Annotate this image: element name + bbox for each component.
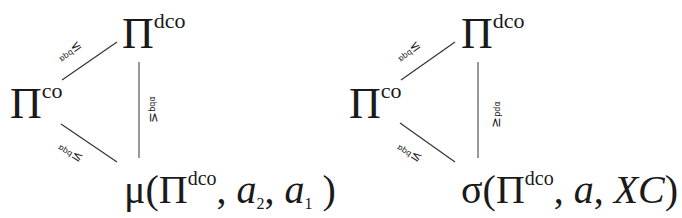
superscript: dco xyxy=(525,167,554,189)
arg-a: a xyxy=(574,167,594,212)
sigma-open: σ( xyxy=(461,167,496,212)
pi-symbol: Π xyxy=(159,167,188,212)
close-paren: ) xyxy=(313,167,336,212)
pi-symbol: Π xyxy=(496,167,525,212)
diagram-mu: Πdco Πco μ(Πdco, a2, a1 ) ≥pdα ≥pdα ≥pdα xyxy=(0,0,341,218)
superscript: co xyxy=(42,78,63,103)
comma: , xyxy=(265,167,285,212)
comma: , xyxy=(594,167,614,212)
node-sigma-expression: σ(Πdco, a, XC) xyxy=(461,168,678,210)
superscript: co xyxy=(381,78,402,103)
edge-label-top-bottom: ≥pdα xyxy=(148,96,161,122)
close-paren: ) xyxy=(665,167,678,212)
arg-a: a xyxy=(285,167,305,212)
node-mu-expression: μ(Πdco, a2, a1 ) xyxy=(124,168,336,212)
mu-open: μ( xyxy=(124,167,159,212)
superscript: dco xyxy=(154,8,186,33)
node-pi-dco: Πdco xyxy=(461,10,525,56)
arg-xc: XC xyxy=(614,167,665,212)
relation: ≥ xyxy=(488,117,503,128)
subscript: 2 xyxy=(257,195,265,212)
node-pi-co: Πco xyxy=(349,80,402,126)
edge-label-top-bottom: ≥pdα xyxy=(489,101,502,127)
subscript: 1 xyxy=(305,195,313,212)
diagram-sigma: Πdco Πco σ(Πdco, a, XC) ≥pdα ≥pdα ≥pdα xyxy=(341,0,682,218)
node-pi-dco: Πdco xyxy=(122,10,186,56)
comma: , xyxy=(554,167,574,212)
pi-symbol: Π xyxy=(122,9,154,58)
sub: pd xyxy=(493,107,502,117)
sub: pd xyxy=(148,102,157,112)
pi-symbol: Π xyxy=(10,79,42,128)
pi-symbol: Π xyxy=(349,79,381,128)
sup: α xyxy=(148,96,157,101)
superscript: dco xyxy=(493,8,525,33)
superscript: dco xyxy=(188,167,217,189)
comma: , xyxy=(217,167,237,212)
node-pi-co: Πco xyxy=(10,80,63,126)
arg-a: a xyxy=(237,167,257,212)
relation: ≥ xyxy=(147,112,162,123)
sup: α xyxy=(493,101,502,106)
pi-symbol: Π xyxy=(461,9,493,58)
